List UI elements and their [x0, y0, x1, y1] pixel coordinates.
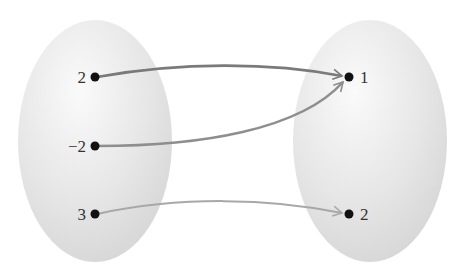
range-point-2 — [345, 210, 354, 219]
domain-point-3 — [91, 210, 100, 219]
domain-label-3: 3 — [78, 205, 87, 224]
domain-label-2: 2 — [78, 68, 87, 87]
domain-point-2 — [91, 73, 100, 82]
mapping-diagram: 2 −2 3 1 2 — [0, 0, 453, 271]
domain-point-neg2 — [91, 142, 100, 151]
domain-label-neg2: −2 — [68, 137, 86, 156]
range-set-ellipse — [293, 20, 447, 262]
range-point-1 — [345, 73, 354, 82]
range-label-1: 1 — [360, 68, 369, 87]
range-label-2: 2 — [360, 205, 369, 224]
domain-set-ellipse — [18, 20, 172, 262]
